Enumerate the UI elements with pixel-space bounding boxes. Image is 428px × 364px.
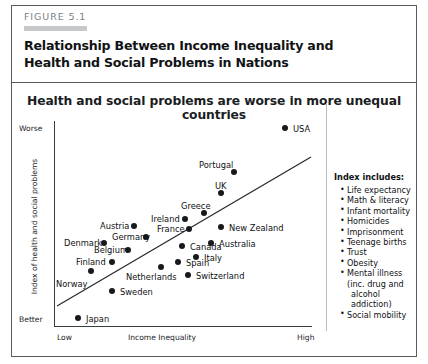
- legend-item: Math & literacy: [341, 195, 418, 205]
- legend-panel: Index includes: Life expectancyMath & li…: [334, 172, 418, 320]
- figure-accent-rule: [24, 26, 87, 31]
- legend-item: (inc. drug and: [341, 279, 418, 289]
- chart-subtitle: Health and social problems are worse in …: [0, 94, 428, 122]
- legend-item: Mental illness: [341, 268, 418, 278]
- legend-item: Infant mortality: [341, 206, 418, 216]
- legend-title: Index includes:: [334, 172, 418, 182]
- figure-container: FIGURE 5.1 Relationship Between Income I…: [0, 0, 428, 364]
- legend-item: Teenage births: [341, 237, 418, 247]
- legend-item: Imprisonment: [341, 227, 418, 237]
- legend-divider: [326, 103, 327, 331]
- legend-item-list: Life expectancyMath & literacyInfant mor…: [334, 185, 418, 320]
- legend-item: Obesity: [341, 258, 418, 268]
- legend-item: alcohol addiction): [341, 289, 418, 310]
- legend-item: Life expectancy: [341, 185, 418, 195]
- legend-item: Homicides: [341, 216, 418, 226]
- legend-item: Trust: [341, 247, 418, 257]
- figure-title: Relationship Between Income Inequality a…: [24, 38, 374, 71]
- header-divider: [12, 82, 416, 83]
- figure-number: FIGURE 5.1: [24, 11, 86, 22]
- legend-item: Social mobility: [341, 310, 418, 320]
